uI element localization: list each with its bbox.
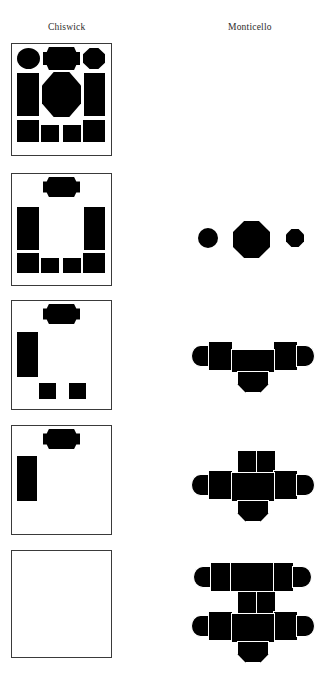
wing-room-left [208,341,233,371]
north-range-center [230,562,274,592]
rect-room-bottom-3 [63,258,81,273]
apse-bay-south [237,371,269,393]
octagon-pavilion-right [286,229,304,247]
figure-canvas: Chiswick Monticello [0,0,329,686]
monticello-massing-1-empty [185,43,315,156]
rect-room-left [17,73,39,116]
rect-room-bottom-3 [63,125,81,142]
apse-bay-south [237,500,269,522]
octagon-core-center [233,221,270,258]
chiswick-plan-frame-3 [11,300,112,410]
chiswick-plan-frame-4 [11,425,112,535]
monticello-massing-4 [185,425,320,535]
rect-room-bottom-1 [17,120,39,142]
octagon-saloon-center [42,72,81,117]
rect-room-bottom-4 [83,253,105,273]
lozenge-room-top-center [43,304,80,324]
central-block [231,349,275,373]
wing-room-left [208,470,233,500]
wing-bay-right-rounded [296,615,315,637]
central-block [231,613,275,643]
wing-room-right [273,611,298,641]
lozenge-room-top-center [43,429,80,449]
rect-room-left [17,456,37,501]
rect-room-bottom-4 [83,120,105,142]
octagon-room-top-right [83,48,105,69]
monticello-massing-3 [185,300,320,410]
rect-room-bottom-2 [41,125,59,142]
column-title-chiswick: Chiswick [48,22,86,32]
rect-room-bottom-3 [69,383,86,399]
north-room-left [210,562,231,592]
rect-room-right [84,207,105,250]
chiswick-plan-frame-2 [11,173,112,286]
wing-bay-right-rounded [296,474,315,496]
wing-bay-right-rounded [296,345,315,367]
wing-room-left [208,611,233,641]
monticello-massing-2 [185,173,315,286]
north-room-right [273,562,294,592]
chiswick-plan-frame-5 [11,550,112,658]
monticello-massing-5 [185,550,325,665]
lozenge-room-top-center [43,177,80,197]
circle-room-top-left [17,48,40,69]
circle-pavilion-left [198,228,218,248]
rect-room-bottom-2 [39,383,56,399]
rect-room-bottom-2 [41,258,59,273]
rect-room-left [17,207,39,250]
lozenge-room-top-center [43,47,80,70]
column-title-monticello: Monticello [228,22,272,32]
upper-room-left [237,591,257,614]
apse-bay-south [237,641,269,663]
wing-room-right [273,341,298,371]
central-block [231,472,275,502]
rect-room-right [84,73,105,116]
chiswick-plan-frame-1 [11,43,112,156]
wing-room-right [273,470,298,500]
upper-room-left [237,450,257,473]
rect-room-left [17,332,38,377]
north-bay-right-rounded [292,566,312,588]
rect-room-bottom-1 [17,253,39,273]
